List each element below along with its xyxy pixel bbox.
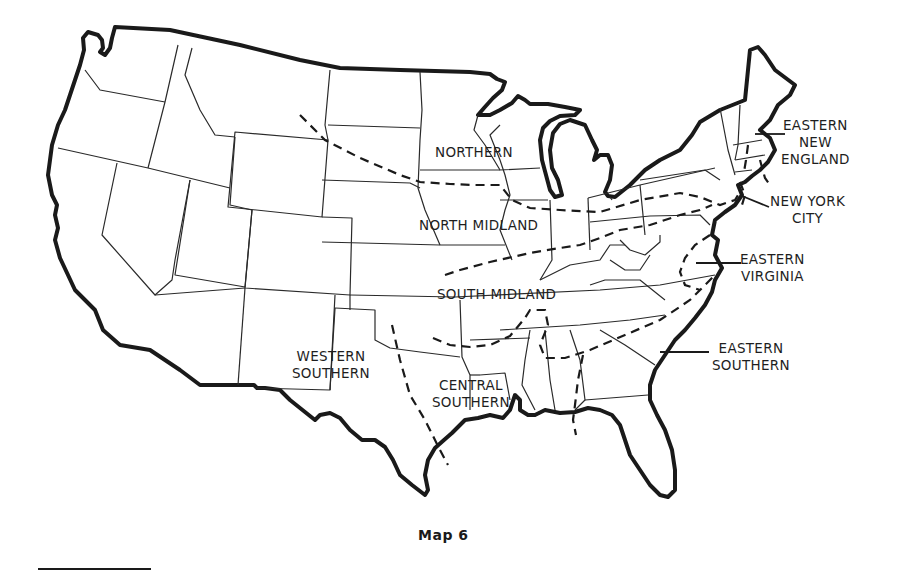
state-boundaries bbox=[58, 45, 765, 410]
label-northern: NORTHERN bbox=[435, 144, 513, 161]
label-north-midland: NORTH MIDLAND bbox=[419, 217, 538, 234]
label-eastern-new-england: EASTERN NEW ENGLAND bbox=[781, 117, 850, 168]
label-eastern-southern: EASTERN SOUTHERN bbox=[712, 340, 790, 374]
label-south-midland: SOUTH MIDLAND bbox=[437, 286, 556, 303]
dialect-map: NORTHERN NORTH MIDLAND SOUTH MIDLAND WES… bbox=[0, 0, 915, 576]
footnote-rule bbox=[38, 568, 151, 570]
label-leader-lines bbox=[660, 134, 785, 352]
label-new-york-city: NEW YORK CITY bbox=[770, 193, 845, 227]
map-caption: Map 6 bbox=[418, 527, 469, 543]
label-central-southern: CENTRAL SOUTHERN bbox=[432, 377, 510, 411]
label-eastern-virginia: EASTERN VIRGINIA bbox=[740, 251, 805, 285]
label-western-southern: WESTERN SOUTHERN bbox=[292, 348, 370, 382]
